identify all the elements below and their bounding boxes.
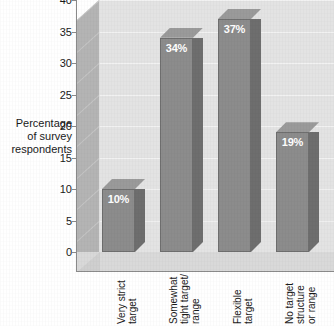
y-axis-tick-mark [72, 63, 76, 64]
gridline [99, 95, 334, 96]
y-axis-tick-mark [72, 95, 76, 96]
x-axis-category-label-line: Somewhat [168, 274, 179, 324]
y-axis-tick-mark [72, 0, 76, 1]
x-axis-category-label: Flexibletarget [232, 290, 254, 324]
y-axis-tick-label: 5 [50, 216, 72, 227]
plot-area: 10%34%37%19% [77, 0, 334, 272]
bar-side-face [193, 38, 203, 252]
bar-column: 19% [276, 122, 319, 252]
y-axis-tick-label: 30 [50, 58, 72, 69]
gridline [99, 32, 334, 33]
x-axis-category-label-line: target [243, 290, 254, 324]
bar-column: 37% [218, 9, 261, 252]
y-axis-tick-label: 0 [50, 247, 72, 258]
x-axis-category-label: Very stricttarget [116, 280, 138, 324]
bar-front-face [218, 19, 251, 252]
y-axis-title-line: of survey [0, 130, 72, 143]
bar-cap-face [218, 9, 261, 19]
y-axis-title: Percentageof surveyrespondents [0, 117, 72, 156]
bar-side-face [251, 19, 261, 252]
x-axis-category-label-line: No target [284, 283, 295, 324]
x-axis-category-label-line: Flexible [232, 290, 243, 324]
x-axis-category-labels: Very stricttargetSomewhattight target/ra… [77, 272, 334, 326]
y-axis-line [76, 0, 77, 272]
y-axis-tick-label: 40 [50, 0, 72, 6]
gridline [99, 0, 334, 1]
x-axis-category-label-line: Very strict [116, 280, 127, 324]
bar-cap-face [276, 122, 319, 132]
bar-value-label: 37% [218, 23, 251, 35]
bar-value-label: 10% [102, 193, 135, 205]
y-axis-title-line: Percentage [0, 117, 72, 130]
y-axis-tick-mark [72, 32, 76, 33]
x-axis-category-label-line: range [190, 274, 201, 324]
gridline [99, 63, 334, 64]
x-axis-category-label: No targetstructureor range [284, 283, 317, 324]
bar-chart: 10%34%37%19% 0510152025303540 Percentage… [0, 0, 334, 326]
bar-front-face [276, 132, 309, 252]
plot-floor [77, 252, 334, 272]
x-axis-category-label-line: structure [295, 283, 306, 324]
x-axis-category-label-line: tight target/ [179, 274, 190, 324]
bar-cap-face [102, 179, 145, 189]
bar-front-face [160, 38, 193, 252]
bar-side-face [309, 132, 319, 252]
y-axis-tick-mark [72, 158, 76, 159]
bar-cap-face [160, 28, 203, 38]
bar-value-label: 34% [160, 42, 193, 54]
bar-column: 10% [102, 179, 145, 252]
bar-side-face [135, 189, 145, 252]
y-axis-tick-mark [72, 221, 76, 222]
y-axis-tick-label: 35 [50, 27, 72, 38]
y-axis-tick-mark [72, 252, 76, 253]
bar-value-label: 19% [276, 136, 309, 148]
bar-column: 34% [160, 28, 203, 252]
y-axis-tick-label: 25 [50, 90, 72, 101]
y-axis-tick-label: 10 [50, 184, 72, 195]
y-axis-tick-mark [72, 126, 76, 127]
y-axis-tick-mark [72, 189, 76, 190]
y-axis-title-line: respondents [0, 143, 72, 156]
x-axis-category-label-line: or range [306, 283, 317, 324]
x-axis-category-label: Somewhattight target/range [168, 274, 201, 324]
x-axis-category-label-line: target [127, 280, 138, 324]
